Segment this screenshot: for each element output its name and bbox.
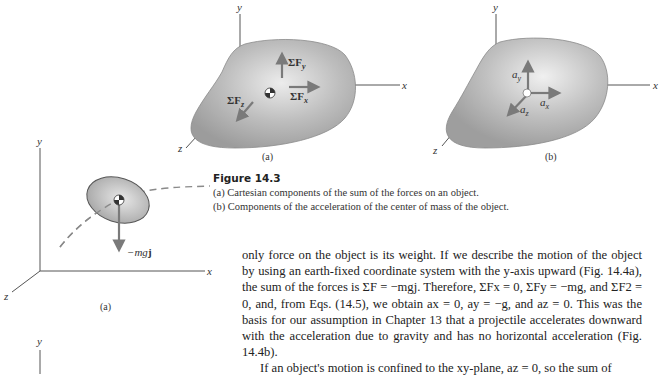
svg-text:y: y xyxy=(36,135,42,147)
svg-text:y: y xyxy=(36,335,42,347)
svg-text:(b): (b) xyxy=(545,151,557,163)
svg-text:−mgj: −mgj xyxy=(127,246,152,258)
svg-text:y: y xyxy=(236,1,242,13)
svg-text:(a): (a) xyxy=(262,151,273,163)
figure-caption-a: (a) Cartesian components of the sum of t… xyxy=(213,187,479,198)
figure-14-4a: y x z −mgj (a) xyxy=(3,135,212,313)
figure-14-3a: y x z ΣFy ΣFx ΣFz (a) xyxy=(177,1,407,163)
figure-14-4b: y xyxy=(36,335,42,374)
paragraph-2: If an object's motion is confined to the… xyxy=(242,360,642,376)
figure-title: Figure 14.3 xyxy=(213,172,281,184)
svg-text:x: x xyxy=(206,265,212,277)
body-text: only force on the object is its weight. … xyxy=(242,247,642,377)
svg-text:(a): (a) xyxy=(100,301,111,313)
paragraph-1: only force on the object is its weight. … xyxy=(242,247,642,360)
figure-caption-b: (b) Components of the acceleration of th… xyxy=(213,201,509,212)
svg-text:x: x xyxy=(401,79,407,91)
svg-text:x: x xyxy=(652,79,658,91)
figure-14-3b: y x z ay ax az (b) xyxy=(432,1,658,163)
svg-text:z: z xyxy=(3,290,9,302)
svg-text:z: z xyxy=(177,142,183,154)
svg-text:z: z xyxy=(432,144,438,156)
svg-text:y: y xyxy=(492,1,498,13)
